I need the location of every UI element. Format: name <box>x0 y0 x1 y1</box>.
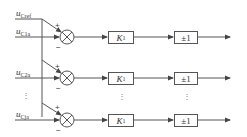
gain-block-rowj: K1 <box>108 114 134 127</box>
ellipsis-inputs: ⋮ <box>22 94 28 97</box>
minus-sign-row1: − <box>56 44 61 52</box>
plus-sign-row1: + <box>55 22 60 30</box>
label-u-c1a: uC1a <box>16 27 30 39</box>
label-u-c2a: uC2a <box>16 68 30 80</box>
minus-sign-rowj: − <box>56 127 61 135</box>
sign-block-rowj: ±1 <box>174 114 198 127</box>
ellipsis-sign: ⋮ <box>183 95 189 98</box>
label-u-cja: uCja <box>16 110 29 122</box>
control-block-diagram: uCref uC1a uC2a uCja + − + − + − K1 K1 K… <box>0 0 247 137</box>
gain-block-row1: K1 <box>108 31 134 44</box>
plus-sign-rowj: + <box>55 104 60 112</box>
label-u-cref: uCref <box>16 9 31 21</box>
ellipsis-gain: ⋮ <box>118 95 124 98</box>
gain-block-row2: K1 <box>108 72 134 85</box>
plus-sign-row2: + <box>55 63 60 71</box>
sign-block-row2: ±1 <box>174 72 198 85</box>
sign-block-row1: ±1 <box>174 31 198 44</box>
minus-sign-row2: − <box>56 85 61 93</box>
